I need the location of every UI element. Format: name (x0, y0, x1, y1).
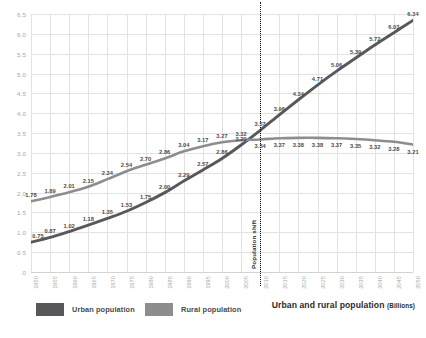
data-label: 1.75 (140, 194, 151, 200)
data-label: 3.35 (350, 143, 361, 149)
data-label: 3.21 (407, 149, 418, 155)
chart-footer: Urban population Rural population Urban … (0, 298, 426, 328)
data-label: 2.34 (102, 170, 113, 176)
data-label: 3.37 (331, 142, 342, 148)
chart-container: Population shift 00.51.01.52.02.53.03.54… (0, 0, 426, 338)
y-axis-tick: 6.5 (17, 11, 26, 18)
data-label: 4.34 (293, 91, 304, 97)
y-axis-tick: 0.5 (17, 249, 26, 256)
data-label: 4.71 (312, 76, 323, 82)
x-axis-tick: 1975 (129, 276, 135, 289)
data-label: 2.00 (159, 184, 170, 190)
legend-swatch-rural (145, 303, 173, 316)
data-label: 2.01 (64, 183, 75, 189)
y-axis-tick: 6.0 (17, 30, 26, 37)
data-label: 3.04 (178, 142, 189, 148)
data-label: 3.57 (255, 121, 266, 127)
legend-label-rural: Rural population (181, 305, 241, 314)
data-label: 1.02 (64, 223, 75, 229)
data-label: 1.78 (25, 192, 36, 198)
y-axis-tick: 5.5 (17, 50, 26, 57)
chart-title-units: (Billions) (387, 302, 415, 309)
data-label: 1.18 (83, 216, 94, 222)
data-label: 1.53 (121, 202, 132, 208)
gridline-horizontal (31, 272, 413, 273)
data-label: 1.35 (102, 209, 113, 215)
data-label: 2.29 (178, 172, 189, 178)
data-label: 3.38 (293, 142, 304, 148)
x-axis-tick: 1950 (33, 276, 39, 289)
data-label: 6.34 (407, 11, 418, 17)
data-label: 2.86 (216, 149, 227, 155)
y-axis-tick: 1.5 (17, 209, 26, 216)
data-label: 5.39 (350, 49, 361, 55)
x-axis-tick: 1965 (91, 276, 97, 289)
x-axis-tick: 2015 (282, 276, 288, 289)
x-axis-tick: 1995 (205, 276, 211, 289)
chart-title: Urban and rural population (Billions) (272, 300, 415, 310)
data-label: 2.15 (83, 178, 94, 184)
data-label: 1.89 (44, 188, 55, 194)
data-label: 2.57 (197, 161, 208, 167)
x-axis-tick: 1990 (186, 276, 192, 289)
data-label: 0.87 (44, 228, 55, 234)
data-label: 6.03 (388, 24, 399, 30)
data-label: 5.06 (331, 62, 342, 68)
population-shift-label: Population shift (250, 220, 257, 269)
x-axis-tick: 2035 (358, 276, 364, 289)
data-label: 3.17 (197, 137, 208, 143)
x-axis-tick: 2005 (243, 276, 249, 289)
x-axis-tick: 1970 (110, 276, 116, 289)
legend-item-urban: Urban population (36, 303, 135, 316)
x-axis-tick: 1960 (72, 276, 78, 289)
x-axis-tick: 2025 (320, 276, 326, 289)
x-axis-tick: 2045 (396, 276, 402, 289)
chart-title-text: Urban and rural population (272, 300, 385, 310)
data-label: 2.70 (140, 156, 151, 162)
data-label: 3.96 (274, 106, 285, 112)
data-label: 5.72 (369, 36, 380, 42)
x-axis-tick: 2050 (415, 276, 421, 289)
y-axis-tick: 0 (22, 269, 26, 276)
data-label: 2.86 (159, 149, 170, 155)
data-label: 0.75 (32, 233, 43, 239)
data-label: 3.34 (255, 143, 266, 149)
legend-swatch-urban (36, 303, 64, 316)
y-axis-tick: 2.5 (17, 169, 26, 176)
x-axis-tick: 1980 (148, 276, 154, 289)
y-axis-tick: 4.0 (17, 110, 26, 117)
x-axis-tick: 2020 (301, 276, 307, 289)
data-label: 3.32 (369, 144, 380, 150)
x-axis-tick: 2010 (263, 276, 269, 289)
y-axis-tick: 4.5 (17, 90, 26, 97)
x-axis-tick: 2000 (224, 276, 230, 289)
legend-item-rural: Rural population (145, 303, 241, 316)
y-axis-tick: 3.5 (17, 130, 26, 137)
data-label: 3.32 (235, 131, 246, 137)
data-label: 3.37 (274, 142, 285, 148)
y-axis-tick: 5.0 (17, 70, 26, 77)
x-axis-tick: 2040 (377, 276, 383, 289)
x-axis-tick: 1955 (52, 276, 58, 289)
data-label: 2.54 (121, 162, 132, 168)
plot-area: Population shift 00.51.01.52.02.53.03.54… (31, 14, 413, 272)
y-axis-tick: 1.0 (17, 229, 26, 236)
legend-label-urban: Urban population (72, 305, 135, 314)
x-axis-tick: 2030 (339, 276, 345, 289)
data-label: 3.38 (312, 142, 323, 148)
x-axis-tick: 1985 (167, 276, 173, 289)
data-label: 3.28 (388, 146, 399, 152)
data-label: 3.27 (216, 133, 227, 139)
y-axis-tick: 3.0 (17, 149, 26, 156)
gridline-vertical (413, 14, 414, 272)
